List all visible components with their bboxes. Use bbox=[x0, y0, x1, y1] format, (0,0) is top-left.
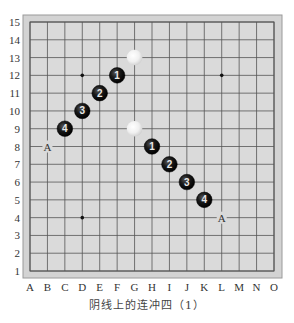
row-label: 13 bbox=[9, 52, 21, 64]
black-stone: 1 bbox=[109, 68, 125, 84]
column-label: O bbox=[270, 281, 278, 293]
column-labels: ABCDEFGHIJKLMNO bbox=[26, 281, 278, 293]
diagram-caption: 阴线上的连冲四（1） bbox=[0, 296, 294, 312]
column-label: L bbox=[218, 281, 225, 293]
black-stone: 2 bbox=[162, 156, 178, 172]
column-label: M bbox=[234, 281, 244, 293]
black-stone: 4 bbox=[57, 121, 73, 137]
row-label: 12 bbox=[9, 69, 20, 81]
row-label: 7 bbox=[15, 158, 21, 170]
column-label: H bbox=[148, 281, 156, 293]
column-label: I bbox=[168, 281, 172, 293]
row-label: 9 bbox=[15, 123, 21, 135]
marker-label: A bbox=[43, 141, 51, 153]
column-label: G bbox=[131, 281, 139, 293]
star-point bbox=[220, 74, 224, 78]
black-stone: 1 bbox=[144, 139, 160, 155]
white-stone bbox=[127, 50, 143, 66]
star-point bbox=[80, 74, 84, 78]
stone-number: 2 bbox=[97, 88, 103, 99]
row-label: 4 bbox=[15, 212, 21, 224]
stone-number: 3 bbox=[184, 177, 190, 188]
star-point bbox=[80, 216, 84, 220]
row-label: 8 bbox=[15, 141, 21, 153]
black-stone: 4 bbox=[196, 192, 212, 208]
black-stone: 2 bbox=[92, 85, 108, 101]
stone-number: 2 bbox=[167, 159, 173, 170]
row-label: 10 bbox=[9, 105, 21, 117]
stone-number: 1 bbox=[114, 70, 120, 81]
column-label: B bbox=[44, 281, 51, 293]
row-label: 15 bbox=[9, 16, 21, 28]
row-label: 5 bbox=[15, 194, 21, 206]
stone-number: 4 bbox=[62, 123, 68, 134]
marker-label: A bbox=[218, 212, 226, 224]
black-stone: 3 bbox=[179, 174, 195, 190]
column-label: E bbox=[96, 281, 103, 293]
row-labels: 151413121110987654321 bbox=[9, 16, 21, 277]
gomoku-board-diagram: 151413121110987654321 ABCDEFGHIJKLMNO AA… bbox=[0, 0, 294, 323]
column-label: F bbox=[114, 281, 120, 293]
stone-number: 1 bbox=[149, 141, 155, 152]
column-label: C bbox=[61, 281, 68, 293]
black-stone: 3 bbox=[74, 103, 90, 119]
row-label: 6 bbox=[15, 176, 21, 188]
row-label: 11 bbox=[9, 87, 20, 99]
white-stone bbox=[127, 121, 143, 137]
row-label: 14 bbox=[9, 34, 21, 46]
row-label: 2 bbox=[15, 247, 21, 259]
stone-number: 3 bbox=[80, 105, 86, 116]
column-label: K bbox=[200, 281, 208, 293]
row-label: 1 bbox=[15, 265, 21, 277]
column-label: J bbox=[185, 281, 190, 293]
column-label: A bbox=[26, 281, 34, 293]
column-label: N bbox=[253, 281, 261, 293]
row-label: 3 bbox=[15, 229, 21, 241]
column-label: D bbox=[78, 281, 86, 293]
stone-number: 4 bbox=[202, 194, 208, 205]
